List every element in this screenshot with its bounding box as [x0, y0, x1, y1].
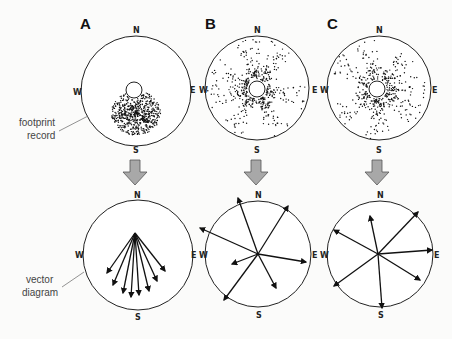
label-s: S — [135, 313, 141, 322]
label-e: E — [312, 251, 317, 260]
label-e: E — [312, 86, 317, 95]
label-s: S — [254, 146, 260, 155]
caption-diagram: diagram — [22, 287, 58, 298]
label-w: W — [199, 86, 208, 95]
label-s: S — [133, 146, 139, 155]
down-arrow-icon — [123, 160, 147, 185]
caption-vector: vector — [26, 274, 54, 285]
label-n: N — [377, 191, 384, 200]
footprint-record-b — [205, 36, 309, 140]
label-e: E — [432, 86, 437, 95]
label-n: N — [376, 26, 383, 35]
label-n: N — [133, 26, 140, 35]
label-w: W — [73, 88, 82, 97]
label-s: S — [378, 311, 384, 320]
label-w: W — [320, 251, 329, 260]
caption-footprint: footprint — [19, 117, 55, 128]
label-w: W — [320, 86, 329, 95]
label-n: N — [134, 191, 141, 200]
down-arrow-icon — [244, 160, 268, 185]
footprint-vector-figure: A B C N W S E N W S E N W S E footprint … — [0, 0, 452, 339]
down-arrow-icon — [365, 160, 389, 185]
label-w: W — [75, 251, 84, 260]
vector-diagram-a — [83, 200, 193, 310]
caption-record: record — [27, 130, 55, 141]
panel-label-a: A — [80, 15, 91, 32]
panel-label-c: C — [327, 15, 338, 32]
label-s: S — [256, 311, 262, 320]
leader-line — [59, 116, 88, 131]
label-e: E — [190, 86, 195, 95]
panel-label-b: B — [205, 15, 216, 32]
label-s: S — [376, 146, 382, 155]
label-n: N — [254, 26, 261, 35]
label-w: W — [199, 251, 208, 260]
label-e: E — [434, 251, 439, 260]
footprint-record-c — [327, 36, 431, 140]
leader-line — [62, 272, 84, 287]
footprint-record-a — [81, 36, 191, 146]
label-n: N — [255, 191, 262, 200]
label-e: E — [191, 251, 196, 260]
